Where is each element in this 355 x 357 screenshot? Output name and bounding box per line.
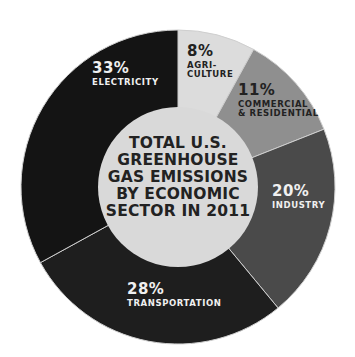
label-transportation-percent: 28%	[127, 282, 222, 297]
label-electricity-name: ELECTRICITY	[92, 78, 159, 87]
label-commercial-residential-name: COMMERCIAL & RESIDENTIAL	[238, 100, 319, 119]
label-agriculture-name: AGRI- CULTURE	[187, 61, 233, 80]
label-transportation: 28% TRANSPORTATION	[127, 282, 222, 308]
label-industry-name: INDUSTRY	[272, 201, 325, 210]
label-commercial-residential-percent: 11%	[238, 83, 319, 98]
label-transportation-name: TRANSPORTATION	[127, 299, 222, 308]
label-industry: 20% INDUSTRY	[272, 184, 325, 210]
label-agriculture-percent: 8%	[187, 44, 233, 59]
label-electricity: 33% ELECTRICITY	[92, 61, 159, 87]
label-agriculture: 8% AGRI- CULTURE	[187, 44, 233, 80]
label-electricity-percent: 33%	[92, 61, 159, 76]
label-commercial-residential: 11% COMMERCIAL & RESIDENTIAL	[238, 83, 319, 119]
chart-title: TOTAL U.S. GREENHOUSE GAS EMISSIONS BY E…	[98, 135, 258, 220]
label-industry-percent: 20%	[272, 184, 325, 199]
